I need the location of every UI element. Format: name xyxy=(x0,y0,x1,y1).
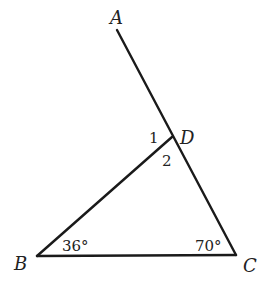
angle-label-c: 70° xyxy=(195,237,222,255)
angle-label-b: 36° xyxy=(62,237,89,255)
point-label-c: C xyxy=(243,255,257,276)
segment-b-d xyxy=(37,137,172,256)
point-label-a: A xyxy=(108,7,123,28)
angle-label-2: 2 xyxy=(162,152,172,170)
segment-a-c xyxy=(117,30,236,255)
segments xyxy=(37,30,236,256)
angle-label-1: 1 xyxy=(149,129,159,147)
point-label-d: D xyxy=(179,127,195,148)
segment-b-c xyxy=(37,255,236,256)
point-label-b: B xyxy=(13,253,27,274)
geometry-diagram: A D B C 1 2 36° 70° xyxy=(0,0,276,290)
